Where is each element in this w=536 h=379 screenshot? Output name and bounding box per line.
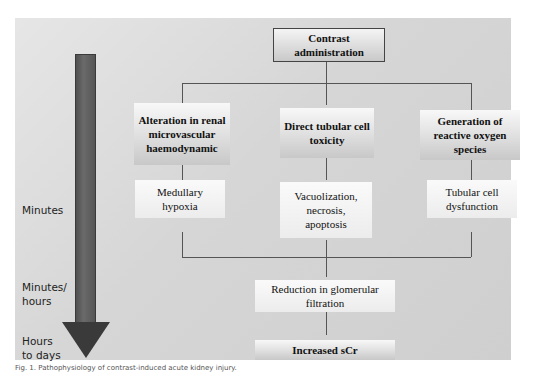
connector-line xyxy=(326,62,327,83)
connector-line xyxy=(471,83,472,110)
figure-caption: Fig. 1. Pathophysiology of contrast-indu… xyxy=(15,364,237,372)
connector-line xyxy=(471,232,472,257)
effect-box-medullary-hypoxia: Medullary hypoxia xyxy=(135,180,225,218)
timeline-arrow-head-icon xyxy=(62,322,110,358)
contrast-administration-box: Contrast administration xyxy=(273,28,385,62)
timeline-label-hours-days: Hours to days xyxy=(22,334,64,362)
timeline-label-minutes: Minutes xyxy=(22,203,63,217)
reduction-gfr-box: Reduction in glomerular filtration xyxy=(255,280,395,312)
timeline-label-minutes-hours: Minutes/ hours xyxy=(22,280,64,308)
mechanism-box-haemodynamic: Alteration in renal microvascular haemod… xyxy=(134,103,230,165)
mechanism-box-tubular-toxicity: Direct tubular cell toxicity xyxy=(280,108,374,158)
connector-line xyxy=(182,232,183,257)
connector-line xyxy=(471,160,472,180)
connector-line xyxy=(326,311,327,335)
connector-line xyxy=(326,83,327,105)
connector-line xyxy=(326,240,327,277)
mechanism-box-ros: Generation of reactive oxygen species xyxy=(420,110,520,160)
timeline-arrow-shaft xyxy=(75,54,96,324)
effect-box-tubular-dysfunction: Tubular cell dysfunction xyxy=(427,180,517,218)
increased-scr-box: Increased sCr xyxy=(255,340,395,360)
effect-box-vacuolization: Vacuolization, necrosis, apoptosis xyxy=(280,182,372,238)
connector-line xyxy=(182,83,183,105)
connector-line xyxy=(182,257,471,258)
